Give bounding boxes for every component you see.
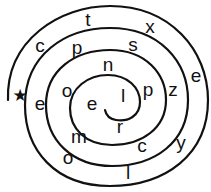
puzzle-letter: l: [121, 85, 125, 106]
puzzle-letter: l: [126, 162, 130, 183]
puzzle-letter: e: [191, 65, 202, 86]
puzzle-letter: y: [176, 132, 186, 153]
puzzle-letter: t: [85, 9, 91, 30]
puzzle-letter: m: [71, 126, 87, 147]
puzzle-letter: r: [117, 116, 124, 137]
letters-layer: ctxeyloepszcmonprel: [35, 9, 202, 183]
puzzle-letter: c: [137, 135, 147, 156]
puzzle-letter: x: [145, 16, 155, 37]
puzzle-letter: p: [143, 79, 154, 100]
puzzle-letter: z: [168, 79, 178, 100]
puzzle-letter: e: [87, 93, 98, 114]
puzzle-letter: n: [103, 54, 114, 75]
puzzle-letter: o: [63, 147, 74, 168]
puzzle-letter: o: [62, 80, 73, 101]
puzzle-letter: c: [35, 35, 45, 56]
puzzle-letter: e: [35, 93, 46, 114]
puzzle-letter: p: [72, 37, 83, 58]
spiral-letter-puzzle: ctxeyloepszcmonprel ★: [0, 0, 211, 192]
spiral-diagram: ctxeyloepszcmonprel ★: [0, 0, 211, 192]
star-icon: ★: [12, 85, 27, 105]
puzzle-letter: s: [128, 34, 138, 55]
